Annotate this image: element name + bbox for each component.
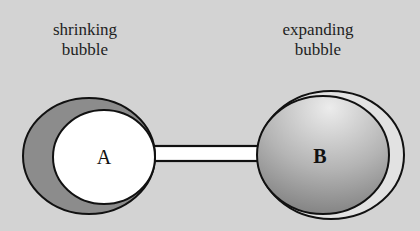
bubble-a-letter: A: [97, 146, 112, 168]
connecting-tube: [150, 146, 262, 161]
bubble-diagram: shrinking bubble expanding bubble A B: [0, 0, 420, 231]
diagram-graphic: A B: [0, 0, 420, 231]
bubble-b-letter: B: [313, 145, 326, 167]
